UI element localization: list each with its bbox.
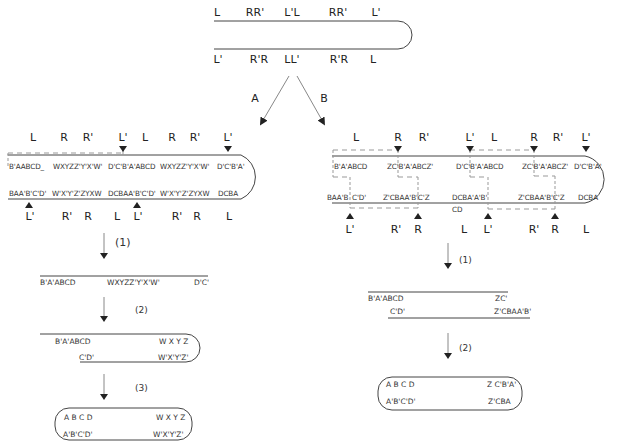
panel-a-upper-seq: D'C'B'A'ABCD [108, 163, 155, 170]
panel-b-lower-seq: DCBA'A'B' [452, 194, 487, 201]
panel-a-upper-seq: WXYZZ'Y'X'W' [160, 163, 209, 170]
panel-b-lower-seq: C'D' [352, 194, 366, 201]
panel-b-lower-label: L [583, 224, 589, 235]
panel-a-step3-top-right: W X Y Z [156, 414, 185, 422]
marker-down-1 [119, 146, 127, 152]
panel-b-upper-label: R [394, 132, 402, 143]
top-upper-label: RR' [246, 7, 264, 18]
top-lower-label: L' [213, 54, 222, 65]
panel-b-upper-label: R' [419, 132, 430, 143]
panel-b-lower-seq: DCBA [578, 194, 598, 201]
panel-a-upper-label: R' [190, 132, 201, 143]
top-lower-label: R'R [330, 54, 348, 65]
marker-up-1 [25, 202, 33, 208]
panel-a-upper-label: R' [83, 132, 94, 143]
panel-a-lower-label: L [226, 211, 232, 222]
panel-a-step1-label: (1) [115, 237, 131, 248]
panel-b-upper-seq: ZC'B'A'ABCZ' [522, 163, 568, 170]
diagram-lines [0, 0, 618, 447]
branch-a-arrow [262, 76, 289, 122]
panel-a-lower-label: L' [25, 211, 34, 222]
top-upper-label: L'L [284, 7, 299, 18]
panel-a-lower-seq: DCBA [218, 190, 238, 197]
panel-a-lower-seq: BAA'B'C'D' [9, 190, 46, 197]
panel-b-lower-label: R [414, 224, 422, 235]
panel-a-step1-seq: D'C' [194, 279, 209, 287]
panel-b-upper-label: R [530, 132, 538, 143]
panel-b-lower-label: L' [345, 224, 354, 235]
panel-a-upper-label: R [60, 132, 68, 143]
branch-b-label: B [320, 93, 328, 104]
panel-b-lower-extra: CD [452, 206, 462, 213]
panel-a-step2-bottom-right: W'X'Y'Z' [158, 354, 189, 362]
marker-up-2 [133, 202, 141, 208]
panel-b-step1-label: (1) [459, 256, 472, 265]
top-lower-label: L [370, 54, 376, 65]
panel-b-lower-label: R' [529, 224, 540, 235]
panel-a-step3-label: (3) [135, 384, 148, 393]
panel-a-lower-label: L [114, 211, 120, 222]
marker-down-2 [224, 146, 232, 152]
panel-a-upper-label: L [142, 132, 148, 143]
panel-b-lower-label: R [551, 224, 559, 235]
branch-b-arrow [297, 76, 323, 122]
panel-a-lower-label: R [193, 211, 201, 222]
panel-a-step1-seq: B'A'ABCD [40, 279, 76, 287]
panel-b-lower-label: L' [483, 224, 492, 235]
top-upper-label: RR' [329, 7, 347, 18]
panel-a-lower-label: L' [133, 211, 142, 222]
panel-a-upper-label: L' [223, 132, 232, 143]
top-upper-label: L [214, 7, 220, 18]
panel-b-upper-seq: D'C'B'A' [574, 163, 602, 170]
top-lower-label: R'R [250, 54, 268, 65]
panel-b-upper-seq: B'A'ABCD [334, 163, 367, 170]
panel-b-upper-seq: ZC'B'A'ABCZ' [387, 163, 433, 170]
panel-b-step2-bottom-right: Z'CBA [488, 398, 511, 406]
panel-b-step1-bottom-right: Z'CBAA'B' [494, 308, 531, 316]
panel-a-lower-seq: DCBAA'B'C'D' [108, 190, 156, 197]
panel-b-upper-label: L' [465, 132, 474, 143]
panel-a-upper-seq: WXYZZ'Y'X'W' [53, 163, 102, 170]
panel-a-step1-seq: WXYZZ'Y'X'W' [107, 279, 160, 287]
panel-b-lower-label: R' [391, 224, 402, 235]
panel-b-lower-label: L [461, 224, 467, 235]
panel-a-upper-seq: B'AABCD_ [9, 163, 44, 170]
panel-b-step2-top-right: Z C'B'A' [487, 381, 516, 389]
panel-a-step3-top-left: A B C D [64, 414, 92, 422]
panel-a-step2-label: (2) [135, 306, 148, 315]
panel-a-step2-bottom-left: C'D' [79, 354, 94, 362]
panel-a-step3-bottom-right: W'X'Y'Z' [153, 431, 184, 439]
panel-a-lower-label: R' [62, 211, 73, 222]
panel-b-upper-seq: D'C'B'A'ABCD [456, 163, 503, 170]
panel-a-lower-seq: W'X'Y'Z'ZYXW [52, 190, 101, 197]
branch-a-label: A [251, 93, 259, 104]
panel-b-step2-bottom-left: A'B'C'D' [386, 398, 416, 406]
panel-b-lower-seq: BAA'B [327, 194, 348, 201]
panel-a-upper-seq: D'C'B'A' [217, 163, 245, 170]
panel-b-upper-label: R' [553, 132, 564, 143]
panel-b-step2-top-left: A B C D [386, 381, 414, 389]
panel-b-step1-top-right: ZC' [495, 295, 507, 303]
panel-a-lower-seq: W'X'Y'Z'ZYXW [160, 190, 209, 197]
panel-a-upper-label: L' [118, 132, 127, 143]
panel-a-lower-label: R [84, 211, 92, 222]
top-lower-label: LL' [284, 54, 299, 65]
panel-b-lower-seq: Z'CBAA'B'C'Z [383, 194, 429, 201]
top-upper-label: L' [371, 7, 380, 18]
panel-b-upper-label: L' [581, 132, 590, 143]
panel-a-upper-label: L [30, 132, 36, 143]
panel-b-upper-label: L [491, 132, 497, 143]
panel-b-upper-label: L [353, 132, 359, 143]
top-hairpin [214, 21, 412, 49]
panel-a-lower-label: R' [172, 211, 183, 222]
panel-b-lower-seq: Z'CBAA'B'C'Z [518, 194, 564, 201]
panel-a-upper-label: R [168, 132, 176, 143]
panel-a-step2-top-right: W X Y Z [159, 338, 188, 346]
panel-a-step2-top-left: B'A'ABCD [55, 338, 91, 346]
panel-b-step1-bottom-left: C'D' [390, 308, 405, 316]
panel-b-step2-label: (2) [459, 344, 472, 353]
panel-b-step1-top-left: B'A'ABCD [368, 295, 404, 303]
panel-a-step3-bottom-left: A'B'C'D' [63, 431, 93, 439]
